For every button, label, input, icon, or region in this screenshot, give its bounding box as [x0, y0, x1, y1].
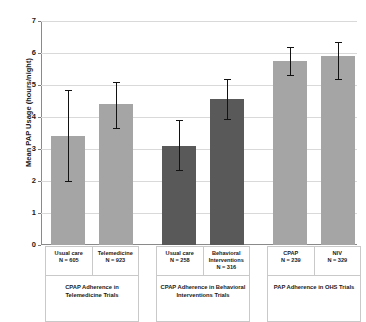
x-axis-category-label: Usual care	[46, 250, 92, 257]
x-axis-category-label: Behavioral Interventions	[204, 250, 250, 264]
x-axis-group-cells: Usual careN = 258Behavioral Intervention…	[157, 247, 249, 275]
x-axis-category-cell: Usual careN = 605	[46, 247, 92, 275]
error-bar	[179, 120, 180, 170]
error-bar-cap-upper	[176, 120, 183, 121]
x-axis-group-caption: CPAP Adherence in Behavioral Interventio…	[157, 275, 249, 321]
error-bar	[290, 47, 291, 76]
x-axis-category-cell: Usual careN = 258	[157, 247, 203, 275]
x-axis-sample-size: N = 258	[157, 257, 203, 264]
error-bar-cap-lower	[287, 75, 294, 76]
error-bar	[338, 42, 339, 79]
error-bar	[116, 82, 117, 128]
bar-chart: Mean PAP Usage (hours/night) 01234567 Us…	[0, 0, 366, 322]
x-axis-category-label: Usual care	[157, 250, 203, 257]
plot-area: 01234567	[41, 21, 357, 245]
error-bar-cap-lower	[335, 79, 342, 80]
x-axis-group: CPAPN = 239NIVN = 329PAP Adherence in OH…	[267, 246, 361, 322]
x-axis-group-caption: CPAP Adherence in Telemedicine Trials	[46, 275, 138, 321]
x-axis-sample-size: N = 239	[268, 257, 314, 264]
x-axis-category-cell: Behavioral InterventionsN = 316	[203, 247, 250, 275]
error-bar-cap-upper	[113, 82, 120, 83]
error-bar-cap-lower	[65, 181, 72, 182]
bar	[273, 61, 307, 245]
x-axis-category-cell: TelemedicineN = 923	[92, 247, 139, 275]
error-bar-cap-upper	[335, 42, 342, 43]
error-bar	[227, 79, 228, 119]
x-axis-sample-size: N = 329	[315, 257, 361, 264]
y-tick-label: 6	[32, 49, 36, 57]
error-bar-cap-lower	[224, 119, 231, 120]
y-tick-label: 5	[32, 81, 36, 89]
x-axis-group: Usual careN = 258Behavioral Intervention…	[156, 246, 250, 322]
x-axis-group-caption: PAP Adherence in OHS Trials	[268, 275, 360, 321]
y-tick-label: 4	[32, 113, 36, 121]
error-bar-cap-upper	[224, 79, 231, 80]
x-axis-category-label: Telemedicine	[93, 250, 139, 257]
error-bar-cap-lower	[176, 170, 183, 171]
x-axis-group-cells: Usual careN = 605TelemedicineN = 923	[46, 247, 138, 275]
x-axis-group: Usual careN = 605TelemedicineN = 923CPAP…	[45, 246, 139, 322]
y-tick-label: 7	[32, 17, 36, 25]
bars-layer	[41, 21, 357, 245]
y-tick-label: 2	[32, 177, 36, 185]
x-axis-category-cell: NIVN = 329	[314, 247, 361, 275]
y-tick-label: 3	[32, 145, 36, 153]
error-bar-cap-upper	[65, 90, 72, 91]
x-axis-category-label: NIV	[315, 250, 361, 257]
bar	[321, 56, 355, 245]
x-axis-label-groups: Usual careN = 605TelemedicineN = 923CPAP…	[41, 246, 357, 322]
bar	[210, 99, 244, 245]
x-axis-category-label: CPAP	[268, 250, 314, 257]
x-axis-sample-size: N = 605	[46, 257, 92, 264]
x-axis-sample-size: N = 923	[93, 257, 139, 264]
x-axis-category-cell: CPAPN = 239	[268, 247, 314, 275]
y-tick-label: 0	[32, 241, 36, 249]
x-axis-sample-size: N = 316	[204, 264, 250, 271]
error-bar	[68, 90, 69, 181]
error-bar-cap-lower	[113, 128, 120, 129]
y-tick-label: 1	[32, 209, 36, 217]
error-bar-cap-upper	[287, 47, 294, 48]
x-axis-group-cells: CPAPN = 239NIVN = 329	[268, 247, 360, 275]
